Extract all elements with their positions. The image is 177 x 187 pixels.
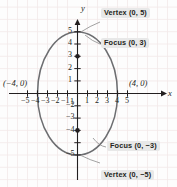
ytick-label-minus5: −5 [66,149,75,158]
x-axis-label: x [168,88,172,98]
annotation-vertex-lower: Vertex (0, −5) [101,170,154,180]
xtick-label-minus2: −2 [51,96,60,105]
xtick-label-minus5: −5 [21,96,30,105]
x-axis-arrow [161,91,167,97]
y-axis-label: y [81,3,85,13]
xtick-label-3: 3 [105,96,109,105]
plot-canvas [0,0,177,187]
ytick-label-4: 4 [68,38,72,47]
ytick-label-minus3: −3 [66,112,75,121]
ytick-label-5: 5 [68,26,72,35]
xtick-label-1: 1 [85,96,89,105]
xtick-label-5: 5 [125,96,129,105]
annotation-focus-lower: Focus (0, −3) [107,141,160,151]
xtick-label-4: 4 [115,96,119,105]
ytick-label-2: 2 [68,63,72,72]
annotation-vertex-upper: Vertex (0, 5) [101,8,150,18]
focus-lower-point [75,128,80,133]
ytick-label-minus2: −2 [66,100,75,109]
ellipse-graph-figure: Vertex (0, 5) Focus (0, 3) Focus (0, −3)… [0,0,177,187]
ytick-label-1: 1 [68,75,72,84]
label-left-vertex: (−4, 0) [3,78,27,88]
leader-vertex-upper [81,22,101,32]
label-right-vertex: (4, 0) [129,78,147,88]
xtick-label-minus3: −3 [41,96,50,105]
y-axis-arrow [75,19,81,25]
xtick-label-2: 2 [95,96,99,105]
ytick-label-3: 3 [68,50,72,59]
ytick-label-minus4: −4 [66,125,75,134]
annotation-focus-upper: Focus (0, 3) [101,38,149,48]
focus-upper-point [75,54,80,59]
xtick-label-minus4: −4 [31,96,40,105]
